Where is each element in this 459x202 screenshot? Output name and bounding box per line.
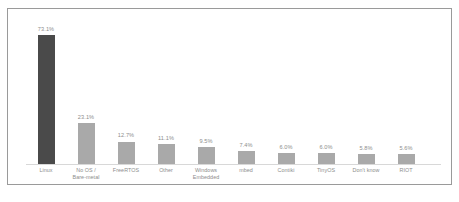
bar-group[interactable]: 9.5%	[186, 15, 226, 164]
x-tick-label: Linux	[26, 167, 66, 182]
bar-group[interactable]: 6.0%	[306, 15, 346, 164]
x-tick-label: FreeRTOS	[106, 167, 146, 182]
bar-group[interactable]: 11.1%	[146, 15, 186, 164]
x-tick-label-line: Contiki	[266, 167, 306, 174]
x-tick-label-line: Windows	[186, 167, 226, 174]
x-tick-label-line: Other	[146, 167, 186, 174]
bar[interactable]	[38, 35, 55, 164]
bar-value-label: 12.7%	[118, 133, 134, 139]
bar-group[interactable]: 12.7%	[106, 15, 146, 164]
bar-chart-figure: 73.1%23.1%12.7%11.1%9.5%7.4%6.0%6.0%5.8%…	[0, 0, 459, 202]
bar[interactable]	[278, 153, 295, 164]
bar[interactable]	[78, 123, 95, 164]
bar-group[interactable]: 73.1%	[26, 15, 66, 164]
bar-value-label: 5.6%	[399, 146, 412, 152]
x-tick-label: RIOT	[386, 167, 426, 182]
bar-group[interactable]: 7.4%	[226, 15, 266, 164]
bar-value-label: 5.8%	[359, 146, 372, 152]
bar-series: 73.1%23.1%12.7%11.1%9.5%7.4%6.0%6.0%5.8%…	[26, 15, 441, 164]
bar[interactable]	[118, 142, 135, 164]
chart-frame: 73.1%23.1%12.7%11.1%9.5%7.4%6.0%6.0%5.8%…	[7, 8, 452, 185]
x-tick-label: TinyOS	[306, 167, 346, 182]
x-tick-label: No OS /Bare-metal	[66, 167, 106, 182]
bar-value-label: 23.1%	[78, 115, 94, 121]
bar[interactable]	[398, 154, 415, 164]
bar-group[interactable]: 6.0%	[266, 15, 306, 164]
x-tick-label: Contiki	[266, 167, 306, 182]
x-tick-label-line: RIOT	[386, 167, 426, 174]
bar-value-label: 6.0%	[279, 145, 292, 151]
bar[interactable]	[158, 144, 175, 164]
x-axis-tick-labels: LinuxNo OS /Bare-metalFreeRTOSOtherWindo…	[26, 167, 441, 182]
bar[interactable]	[238, 151, 255, 164]
x-tick-label-line: Linux	[26, 167, 66, 174]
plot-area: 73.1%23.1%12.7%11.1%9.5%7.4%6.0%6.0%5.8%…	[26, 15, 441, 180]
bar[interactable]	[318, 153, 335, 164]
x-tick-label: Don't know	[346, 167, 386, 182]
bar-value-label: 11.1%	[158, 136, 174, 142]
x-tick-label: mbed	[226, 167, 266, 182]
x-tick-label-line: Bare-metal	[66, 174, 106, 181]
x-axis-baseline	[26, 164, 441, 165]
bar-value-label: 6.0%	[319, 145, 332, 151]
figure-caption-strip	[0, 192, 459, 202]
x-tick-label-line: Don't know	[346, 167, 386, 174]
bar-value-label: 73.1%	[38, 27, 54, 33]
x-tick-label-line: No OS /	[66, 167, 106, 174]
bar-group[interactable]: 5.6%	[386, 15, 426, 164]
x-tick-label: Other	[146, 167, 186, 182]
x-tick-label-line: mbed	[226, 167, 266, 174]
bar[interactable]	[198, 147, 215, 164]
x-tick-label-line: TinyOS	[306, 167, 346, 174]
bar-value-label: 7.4%	[239, 143, 252, 149]
bar-group[interactable]: 5.8%	[346, 15, 386, 164]
bar[interactable]	[358, 154, 375, 164]
bar-value-label: 9.5%	[199, 139, 212, 145]
x-tick-label-line: FreeRTOS	[106, 167, 146, 174]
x-tick-label: WindowsEmbedded	[186, 167, 226, 182]
x-tick-label-line: Embedded	[186, 174, 226, 181]
bar-group[interactable]: 23.1%	[66, 15, 106, 164]
